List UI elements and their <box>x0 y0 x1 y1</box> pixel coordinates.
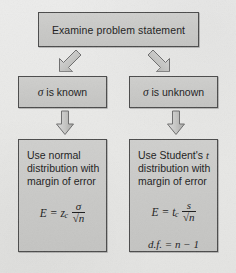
arrow-start-to-known <box>56 49 82 79</box>
formula-normal-lhs: E <box>40 207 47 219</box>
node-use-normal-distribution: Use normal distribution with margin of e… <box>18 139 107 252</box>
node-examine-problem-statement: Examine problem statement <box>38 12 199 47</box>
formula-normal-fraction: σ √n <box>72 201 86 224</box>
arrow-down-icon <box>55 110 75 136</box>
node-unknown-label: is unknown <box>152 86 205 98</box>
node-use-student-t-distribution: Use Student's t distribution with margin… <box>129 139 218 252</box>
degrees-of-freedom: d.f. = n − 1 <box>148 238 199 250</box>
arrow-start-to-unknown <box>147 49 173 79</box>
formula-student-lhs: E <box>151 206 158 218</box>
normal-line-1: Use normal <box>27 149 106 162</box>
student-line-1-text: Use Student's <box>138 149 203 161</box>
student-t-symbol: t <box>206 150 209 161</box>
node-sigma-is-unknown: σ is unknown <box>129 76 218 108</box>
normal-description: Use normal distribution with margin of e… <box>19 149 106 189</box>
formula-normal-denominator: √n <box>72 212 86 224</box>
node-start-label: Examine problem statement <box>52 24 185 36</box>
normal-line-3: margin of error <box>27 175 106 188</box>
formula-student-denominator: √n <box>182 211 196 223</box>
normal-line-2: distribution with <box>27 162 106 175</box>
arrow-down-left-icon <box>56 49 82 75</box>
formula-student-equals: = <box>161 206 169 218</box>
node-known-text: σ is known <box>38 86 87 98</box>
sigma-symbol-unknown: σ <box>143 86 149 98</box>
formula-student-fraction: s √n <box>182 200 196 223</box>
arrow-down-icon <box>166 110 186 136</box>
formula-student-coefficient-subscript: c <box>175 210 179 219</box>
arrow-known-to-normal <box>55 110 75 140</box>
node-known-label: is known <box>46 86 87 98</box>
formula-student-numerator: s <box>186 200 192 210</box>
formula-margin-of-error-student: E = tc s √n <box>151 201 195 224</box>
arrow-unknown-to-student <box>166 110 186 140</box>
student-line-3: margin of error <box>138 175 217 188</box>
formula-normal-equals: = <box>50 207 58 219</box>
student-line-1: Use Student's t <box>138 149 217 162</box>
node-unknown-text: σ is unknown <box>143 86 204 98</box>
student-line-2: distribution with <box>138 162 217 175</box>
node-sigma-is-known: σ is known <box>18 76 107 108</box>
sigma-symbol-known: σ <box>38 86 44 98</box>
flowchart-page: Examine problem statement <box>0 0 236 273</box>
arrow-down-right-icon <box>147 49 173 75</box>
formula-normal-numerator: σ <box>75 201 82 211</box>
student-description: Use Student's t distribution with margin… <box>130 149 217 189</box>
formula-margin-of-error-normal: E = zc σ √n <box>40 202 85 225</box>
formula-normal-coefficient-subscript: c <box>65 211 69 220</box>
